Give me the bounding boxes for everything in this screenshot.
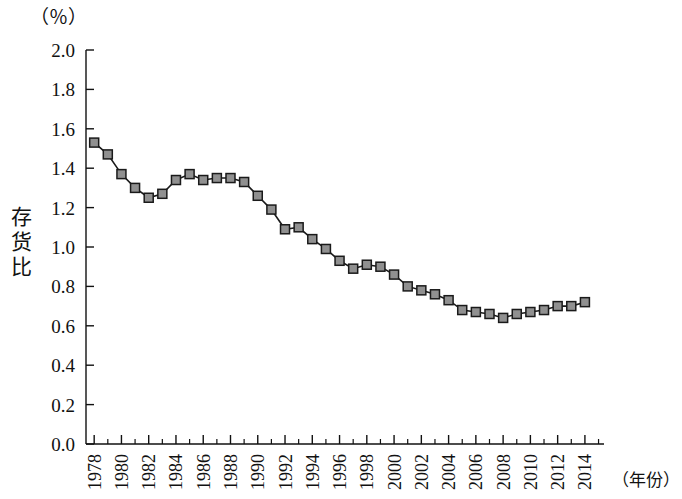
x-tick-label: 1988 bbox=[221, 454, 241, 490]
data-point-marker bbox=[212, 174, 221, 183]
data-point-marker bbox=[390, 270, 399, 279]
x-tick-label: 2014 bbox=[575, 454, 595, 490]
data-point-marker bbox=[308, 235, 317, 244]
chart-page: （％） 存 货 比 （年份） 0.00.20.40.60.81.01.21.41… bbox=[0, 0, 682, 499]
x-tick-label: 2012 bbox=[548, 454, 568, 490]
data-point-marker bbox=[253, 191, 262, 200]
data-point-marker bbox=[226, 174, 235, 183]
x-tick-label: 1998 bbox=[357, 454, 377, 490]
x-tick-label: 2006 bbox=[466, 454, 486, 490]
data-point-marker bbox=[349, 264, 358, 273]
y-tick-label: 1.8 bbox=[51, 79, 75, 100]
y-tick-label: 1.2 bbox=[51, 198, 75, 219]
x-tick-label: 2010 bbox=[521, 454, 541, 490]
data-point-marker bbox=[144, 193, 153, 202]
x-tick-label: 1994 bbox=[303, 454, 323, 490]
y-tick-label: 0.0 bbox=[51, 434, 75, 455]
data-point-marker bbox=[117, 170, 126, 179]
data-point-marker bbox=[580, 298, 589, 307]
x-tick-label: 2000 bbox=[385, 454, 405, 490]
data-point-marker bbox=[158, 189, 167, 198]
data-point-marker bbox=[430, 290, 439, 299]
data-point-marker bbox=[131, 183, 140, 192]
x-tick-label: 2002 bbox=[412, 454, 432, 490]
data-point-marker bbox=[362, 260, 371, 269]
x-tick-label: 1978 bbox=[85, 454, 105, 490]
data-point-marker bbox=[171, 176, 180, 185]
x-tick-label: 1984 bbox=[166, 454, 186, 490]
data-point-marker bbox=[185, 170, 194, 179]
y-tick-label: 0.4 bbox=[51, 355, 75, 376]
data-point-marker bbox=[567, 302, 576, 311]
inventory-ratio-markers bbox=[90, 138, 590, 322]
x-tick-label: 1986 bbox=[194, 454, 214, 490]
data-point-marker bbox=[512, 309, 521, 318]
data-point-marker bbox=[321, 244, 330, 253]
y-tick-label: 1.0 bbox=[51, 237, 75, 258]
data-point-marker bbox=[294, 223, 303, 232]
y-tick-label: 1.4 bbox=[51, 158, 75, 179]
data-point-marker bbox=[240, 177, 249, 186]
x-tick-label: 1982 bbox=[139, 454, 159, 490]
data-point-marker bbox=[553, 302, 562, 311]
data-point-marker bbox=[444, 296, 453, 305]
data-point-marker bbox=[376, 262, 385, 271]
data-point-marker bbox=[526, 308, 535, 317]
y-tick-label: 0.6 bbox=[51, 316, 75, 337]
x-tick-label: 2008 bbox=[494, 454, 514, 490]
data-point-marker bbox=[458, 306, 467, 315]
x-tick-label: 2004 bbox=[439, 454, 459, 490]
y-tick-label: 2.0 bbox=[51, 40, 75, 61]
x-axis-ticks: 1978198019821984198619881990199219941996… bbox=[85, 435, 599, 490]
data-point-marker bbox=[90, 138, 99, 147]
x-tick-label: 1990 bbox=[248, 454, 268, 490]
data-point-marker bbox=[471, 308, 480, 317]
inventory-ratio-line bbox=[94, 143, 585, 318]
y-tick-label: 0.2 bbox=[51, 395, 75, 416]
data-point-marker bbox=[403, 282, 412, 291]
y-tick-label: 0.8 bbox=[51, 276, 75, 297]
x-tick-label: 1996 bbox=[330, 454, 350, 490]
data-point-marker bbox=[103, 150, 112, 159]
data-point-marker bbox=[281, 225, 290, 234]
data-point-marker bbox=[540, 306, 549, 315]
data-point-marker bbox=[267, 205, 276, 214]
data-point-marker bbox=[485, 309, 494, 318]
x-tick-label: 1980 bbox=[112, 454, 132, 490]
x-tick-label: 1992 bbox=[276, 454, 296, 490]
y-axis-ticks: 0.00.20.40.60.81.01.21.41.61.82.0 bbox=[51, 40, 94, 455]
data-point-marker bbox=[417, 286, 426, 295]
y-tick-label: 1.6 bbox=[51, 119, 75, 140]
data-point-marker bbox=[499, 313, 508, 322]
line-chart-plot: 0.00.20.40.60.81.01.21.41.61.82.0 197819… bbox=[0, 0, 682, 499]
data-point-marker bbox=[335, 256, 344, 265]
data-point-marker bbox=[199, 176, 208, 185]
